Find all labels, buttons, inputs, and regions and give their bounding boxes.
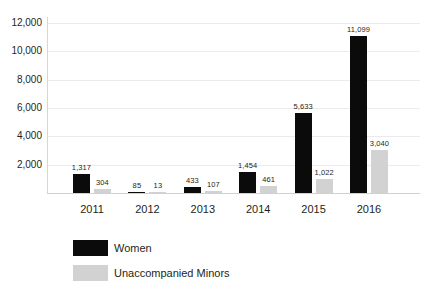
bar-value-label: 3,040 [350,139,410,148]
x-axis-label-2015: 2015 [284,203,344,215]
women-swatch [73,240,108,256]
y-axis-tick-label: 8,000 [2,75,42,85]
unaccompanied-minors-swatch [73,265,108,281]
bar-unaccompanied-minors-2012 [149,192,166,193]
bar-value-label: 5,633 [273,102,333,111]
bar-unaccompanied-minors-2016 [371,150,388,193]
x-axis-label-2014: 2014 [228,203,288,215]
legend-item-women: Women [73,240,230,256]
bar-unaccompanied-minors-2013 [205,191,222,193]
bar-value-label: 1,454 [218,161,278,170]
x-axis-label-2011: 2011 [62,203,122,215]
bar-value-label: 1,022 [294,168,354,177]
y-axis-line [47,17,48,193]
x-axis-label-2016: 2016 [339,203,399,215]
bar-chart-figure: 2,0004,0006,0008,00010,00012,0001,317304… [0,0,434,297]
legend-item-unaccompanied-minors: Unaccompanied Minors [73,265,230,281]
y-axis-tick-label: 10,000 [2,46,42,56]
bar-women-2012 [128,192,145,193]
y-axis-tick-label: 12,000 [2,18,42,28]
bar-women-2015 [295,113,312,193]
y-axis-tick-label: 4,000 [2,131,42,141]
bar-women-2016 [350,36,367,193]
bar-unaccompanied-minors-2015 [316,179,333,193]
bar-value-label: 107 [183,180,243,189]
bar-value-label: 461 [239,175,299,184]
bar-unaccompanied-minors-2014 [260,186,277,193]
legend-label-women: Women [114,242,152,254]
x-axis-label-2012: 2012 [117,203,177,215]
y-axis-tick-label: 6,000 [2,103,42,113]
bar-value-label: 11,099 [329,25,389,34]
y-axis-tick-label: 2,000 [2,160,42,170]
x-axis-label-2013: 2013 [173,203,233,215]
bar-value-label: 1,317 [52,163,112,172]
legend: Women Unaccompanied Minors [73,240,230,290]
legend-label-unaccompanied-minors: Unaccompanied Minors [114,267,230,279]
x-axis-line [47,193,420,194]
